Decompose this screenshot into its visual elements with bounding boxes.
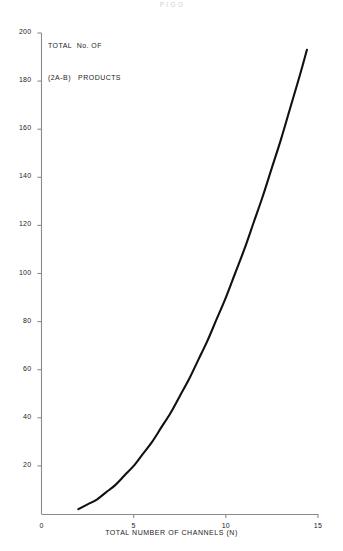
x-axis-tick-label: 0	[30, 522, 54, 529]
y-axis-tick-label: 100	[6, 269, 32, 276]
y-axis-tick-label: 140	[6, 172, 32, 179]
y-axis-tick-label: 200	[6, 28, 32, 35]
y-axis-tick-label: 180	[6, 76, 32, 83]
y-axis-tick-label: 60	[6, 365, 32, 372]
x-axis-tick-label: 5	[122, 522, 146, 529]
y-axis-ticks	[38, 33, 42, 466]
chart-title: TOTAL No. OF (2A-B) PRODUCTS	[48, 20, 121, 104]
x-axis-tick-label: 15	[306, 522, 330, 529]
y-axis-tick-label: 80	[6, 317, 32, 324]
y-axis-tick-label: 40	[6, 413, 32, 420]
x-axis-tick-label: 10	[214, 522, 238, 529]
data-series-curve	[78, 50, 307, 509]
y-axis-tick-label: 20	[6, 461, 32, 468]
y-axis-tick-label: 120	[6, 220, 32, 227]
y-axis-tick-label: 160	[6, 124, 32, 131]
chart-figure: P I G G TOTAL No. OF (2A-B) PRODUCTS 020…	[0, 0, 343, 551]
chart-title-line-1: TOTAL No. OF	[48, 41, 121, 52]
x-axis-title: TOTAL NUMBER OF CHANNELS (N)	[0, 529, 343, 536]
chart-title-line-2: (2A-B) PRODUCTS	[48, 73, 121, 84]
